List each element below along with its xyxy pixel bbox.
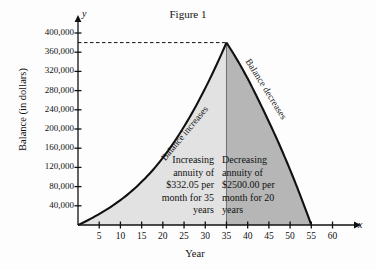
y-tick-label: 120,000 xyxy=(14,161,74,171)
annotation-decreasing-annuity: Decreasing annuity of $2500.00 per month… xyxy=(222,154,296,217)
y-axis-name: y xyxy=(82,8,86,19)
y-tick-label: 80,000 xyxy=(14,181,74,191)
x-axis-name: x xyxy=(358,219,362,230)
annotation-increasing-annuity: Increasing annuity of $332.05 per month … xyxy=(142,154,214,217)
y-tick-label: 40,000 xyxy=(14,200,74,210)
y-tick-label: 200,000 xyxy=(14,123,74,133)
y-tick-label: 160,000 xyxy=(14,142,74,152)
y-tick-label: 360,000 xyxy=(14,46,74,56)
x-axis-label: Year xyxy=(150,248,240,259)
y-tick-label: 400,000 xyxy=(14,27,74,37)
y-tick-label: 240,000 xyxy=(14,104,74,114)
y-tick-label: 280,000 xyxy=(14,85,74,95)
y-tick-label: 320,000 xyxy=(14,65,74,75)
figure-title: Figure 1 xyxy=(0,8,376,20)
x-tick-label: 60 xyxy=(321,231,345,241)
